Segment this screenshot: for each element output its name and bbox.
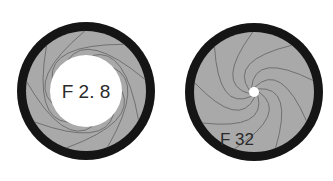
aperture-wide: F 2. 8: [17, 22, 155, 160]
aperture-opening: [249, 87, 259, 97]
aperture-diagram: F 2. 8 F 32: [0, 0, 333, 181]
f-stop-label-narrow: F 32: [220, 130, 254, 149]
aperture-narrow: F 32: [185, 23, 323, 161]
f-stop-label-wide: F 2. 8: [62, 81, 111, 102]
